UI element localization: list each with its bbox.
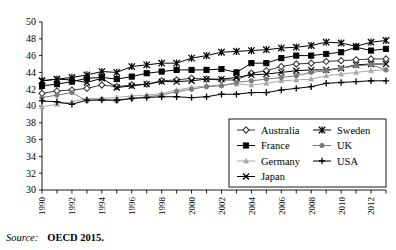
circle-filled-marker	[320, 143, 324, 147]
plus-marker	[278, 87, 284, 93]
plus-marker	[308, 83, 314, 89]
circle-filled-marker	[55, 93, 59, 97]
x-axis-tick-label: 1998	[157, 197, 167, 216]
square-filled-marker	[144, 71, 149, 76]
circle-filled-marker	[279, 75, 283, 79]
diamond-open-marker	[308, 60, 314, 66]
y-axis-tick-label: 36	[26, 134, 36, 145]
plus-marker	[263, 89, 269, 95]
y-axis-tick-label: 40	[26, 100, 36, 111]
y-axis-tick-label: 32	[26, 168, 36, 179]
circle-filled-marker	[70, 90, 74, 94]
x-axis-tick-label: 2000	[187, 197, 197, 216]
diamond-open-marker	[278, 63, 284, 69]
legend-item-label: Sweden	[337, 125, 371, 136]
series-usa	[39, 78, 389, 108]
square-filled-marker	[114, 77, 119, 82]
x-axis-tick-label: 1990	[37, 197, 47, 216]
series-france	[39, 45, 388, 89]
x-axis-tick-label: 2008	[307, 197, 317, 216]
square-filled-marker	[159, 69, 164, 74]
series-line	[42, 64, 386, 88]
circle-filled-marker	[384, 68, 388, 72]
square-filled-marker	[234, 70, 239, 75]
x-axis-tick-label: 2006	[277, 197, 287, 216]
circle-filled-marker	[174, 90, 178, 94]
x-axis-tick-label: 2012	[366, 197, 376, 215]
circle-filled-marker	[234, 80, 238, 84]
plus-marker	[323, 80, 329, 86]
plus-marker	[233, 91, 239, 97]
y-axis-tick-label: 38	[26, 117, 36, 128]
square-filled-marker	[294, 53, 299, 58]
x-axis-tick-label: 2004	[247, 197, 257, 216]
circle-filled-marker	[309, 70, 313, 74]
source-label: Source:	[6, 232, 38, 243]
legend-item-label: France	[261, 140, 290, 151]
x-axis-tick-label: 1994	[97, 197, 107, 216]
legend-item-label: Japan	[261, 171, 286, 182]
plus-marker	[368, 78, 374, 84]
diamond-open-marker	[84, 85, 90, 91]
x-axis-tick-label: 1992	[67, 197, 77, 215]
square-filled-marker	[383, 46, 388, 51]
legend-item-label: Australia	[261, 125, 300, 136]
diamond-open-marker	[338, 58, 344, 64]
y-axis-tick-label: 42	[26, 84, 36, 95]
plus-marker	[248, 89, 254, 95]
circle-filled-marker	[189, 87, 193, 91]
legend-item-label: UK	[337, 140, 353, 151]
square-filled-marker	[309, 53, 314, 58]
y-axis-tick-label: 30	[26, 184, 36, 195]
y-axis-tick-label: 48	[26, 33, 36, 44]
square-filled-marker	[368, 48, 373, 53]
square-filled-marker	[174, 67, 179, 72]
square-filled-marker	[189, 67, 194, 72]
x-axis-tick-label: 2010	[337, 197, 347, 216]
square-filled-marker	[129, 74, 134, 79]
plus-marker	[173, 94, 179, 100]
square-filled-marker	[339, 50, 344, 55]
diamond-open-marker	[293, 61, 299, 67]
y-axis-tick-label: 44	[26, 67, 36, 78]
x-axis-tick-label: 1996	[127, 197, 137, 216]
chart-legend: AustraliaFranceGermanyJapanSwedenUKUSA	[229, 119, 386, 187]
square-filled-marker	[249, 61, 254, 66]
line-chart-figure: 3032343638404244464850199019921994199619…	[0, 0, 396, 250]
source-value: OECD 2015.	[47, 232, 104, 243]
y-axis-tick-label: 46	[26, 50, 36, 61]
plus-marker	[188, 94, 194, 100]
x-axis-tick-label: 2002	[217, 197, 227, 215]
diamond-open-marker	[323, 58, 329, 64]
series-line	[42, 59, 386, 93]
circle-filled-marker	[219, 84, 223, 88]
circle-filled-marker	[264, 77, 268, 81]
square-filled-marker	[204, 67, 209, 72]
circle-filled-marker	[249, 79, 253, 83]
circle-filled-marker	[354, 63, 358, 67]
square-filled-marker	[324, 51, 329, 56]
plus-marker	[383, 78, 389, 84]
square-filled-marker	[264, 61, 269, 66]
square-filled-marker	[279, 56, 284, 61]
circle-filled-marker	[294, 74, 298, 78]
series-australia	[39, 56, 389, 97]
square-filled-marker	[219, 66, 224, 71]
plus-marker	[218, 91, 224, 97]
series-line	[42, 70, 386, 107]
source-note: Source:OECD 2015.	[6, 232, 104, 243]
y-axis-tick-label: 34	[26, 151, 36, 162]
plus-marker	[338, 79, 344, 85]
circle-filled-marker	[369, 63, 373, 67]
series-line	[42, 47, 386, 86]
chart-canvas: 3032343638404244464850199019921994199619…	[0, 0, 396, 250]
square-filled-marker	[243, 143, 248, 148]
legend-item-label: Germany	[261, 156, 301, 167]
circle-filled-marker	[339, 66, 343, 70]
series-line	[42, 81, 386, 105]
plus-marker	[353, 78, 359, 84]
circle-filled-marker	[204, 84, 208, 88]
diamond-open-marker	[263, 68, 269, 74]
y-axis-tick-label: 50	[26, 16, 36, 27]
circle-filled-marker	[324, 69, 328, 73]
